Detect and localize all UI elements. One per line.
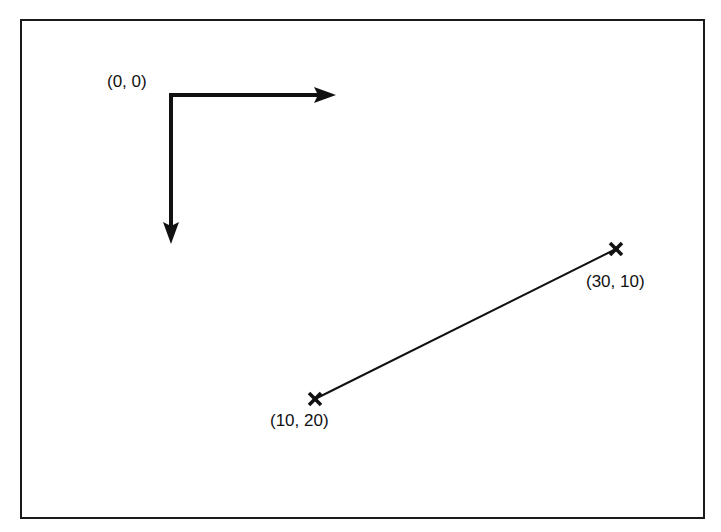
start-point-label: (10, 20) — [270, 412, 329, 429]
origin-label: (0, 0) — [107, 73, 147, 90]
start-point-marker-icon — [309, 393, 321, 405]
x-axis-arrow — [169, 87, 336, 103]
segment-line — [315, 249, 616, 399]
y-axis-arrow — [163, 93, 179, 244]
end-point-marker-icon — [610, 243, 622, 255]
end-point-label: (30, 10) — [586, 273, 645, 290]
